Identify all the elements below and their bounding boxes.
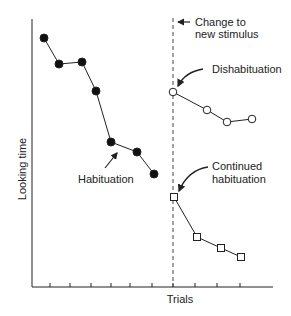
y-axis-label: Looking time: [16, 138, 28, 200]
continued-habituation-arrow-icon: [179, 167, 208, 191]
habituation-chart: Change to new stimulus Dishabituation Ha…: [0, 0, 291, 316]
continued-habituation-line: [174, 197, 241, 257]
filled-circle-marker: [40, 34, 48, 42]
open-square-marker: [218, 245, 225, 252]
x-axis-label: Trials: [167, 293, 194, 305]
habituation-arrow-icon: [105, 153, 117, 168]
continued-label-line2: habituation: [212, 173, 266, 185]
filled-circle-marker: [78, 58, 86, 66]
continued-label-line1: Continued: [212, 160, 262, 172]
dishabituation-arrow-icon: [178, 69, 203, 86]
filled-circle-marker: [55, 60, 63, 68]
change-label-line1: Change to: [195, 16, 246, 28]
open-square-marker: [171, 194, 178, 201]
habituation-label: Habituation: [78, 173, 134, 185]
x-axis-ticks: [50, 283, 240, 287]
filled-circle-marker: [150, 170, 158, 178]
filled-circle-marker: [107, 138, 115, 146]
open-square-marker: [194, 234, 201, 241]
dishabituation-label: Dishabituation: [212, 63, 282, 75]
filled-circle-marker: [133, 148, 141, 156]
open-circle-marker: [169, 88, 177, 96]
open-circle-marker: [223, 118, 231, 126]
open-circle-marker: [203, 106, 211, 114]
open-square-marker: [238, 254, 245, 261]
filled-circle-marker: [92, 87, 100, 95]
dishabituation-line: [173, 92, 252, 122]
open-circle-marker: [248, 115, 256, 123]
change-label-line2: new stimulus: [195, 28, 259, 40]
